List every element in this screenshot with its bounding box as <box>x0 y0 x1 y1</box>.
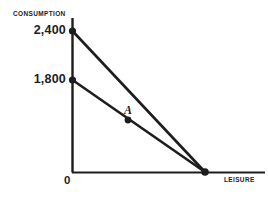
x-axis-title: LEISURE <box>224 176 255 183</box>
y-tick-label-1800: 1,800 <box>10 73 66 86</box>
budget-constraint-figure: CONSUMPTION LEISURE 2,400 1,800 0 A <box>0 0 268 197</box>
leisure-endowment-marker <box>201 168 209 176</box>
intercept-marker-1800 <box>69 76 76 83</box>
steeper-budget-line <box>73 31 206 172</box>
point-a-label: A <box>124 104 132 116</box>
point-a-marker <box>125 117 132 124</box>
flatter-budget-line <box>73 80 206 172</box>
origin-label: 0 <box>64 175 70 187</box>
y-axis-title: CONSUMPTION <box>13 10 66 17</box>
intercept-marker-2400 <box>69 27 76 34</box>
y-tick-label-2400: 2,400 <box>10 24 66 37</box>
